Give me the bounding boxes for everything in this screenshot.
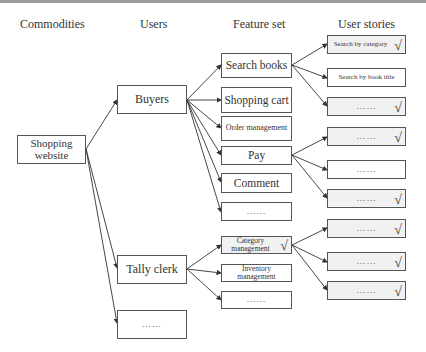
feature-category-management: Category management √ bbox=[221, 236, 292, 254]
user-tally-clerk: Tally clerk bbox=[117, 255, 187, 284]
story-search-by-book-title: Search by book title bbox=[327, 68, 406, 87]
feature-pay: Pay bbox=[221, 146, 292, 165]
story-category-2: …… √ bbox=[327, 252, 406, 271]
commodity-shopping-website: Shopping website bbox=[17, 135, 86, 164]
checkmark-icon: √ bbox=[394, 131, 402, 145]
checkmark-icon: √ bbox=[280, 239, 288, 253]
feature-comment: Comment bbox=[221, 173, 292, 193]
story-pay-3: …… √ bbox=[327, 189, 406, 208]
feature-order-management: Order management bbox=[221, 116, 292, 141]
story-search-more: …… √ bbox=[327, 97, 406, 116]
feature-more-clerk: …… bbox=[221, 291, 292, 309]
checkmark-icon: √ bbox=[394, 256, 402, 270]
story-pay-2: …… bbox=[327, 160, 406, 179]
user-more: …… bbox=[117, 310, 187, 339]
feature-inventory-management: Inventory management bbox=[221, 264, 292, 282]
feature-search-books: Search books bbox=[221, 53, 292, 78]
checkmark-icon: √ bbox=[394, 285, 402, 299]
feature-shopping-cart: Shopping cart bbox=[221, 87, 292, 113]
story-category-1: …… √ bbox=[327, 219, 406, 238]
story-category-3: …… √ bbox=[327, 281, 406, 300]
checkmark-icon: √ bbox=[394, 193, 402, 207]
checkmark-icon: √ bbox=[394, 223, 402, 237]
story-search-by-category: Search by category √ bbox=[327, 35, 406, 54]
story-pay-1: …… √ bbox=[327, 127, 406, 146]
checkmark-icon: √ bbox=[394, 101, 402, 115]
user-buyers: Buyers bbox=[117, 85, 187, 114]
feature-more-buyer: …… bbox=[221, 202, 292, 221]
checkmark-icon: √ bbox=[394, 39, 402, 53]
